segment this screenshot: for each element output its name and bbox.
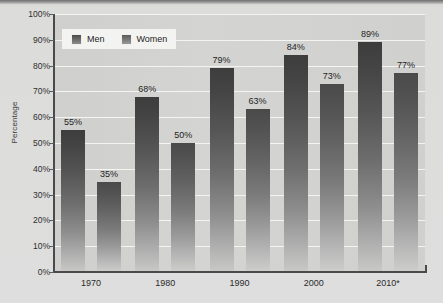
legend-label: Women (137, 34, 168, 44)
bar-value-label: 68% (138, 84, 156, 94)
x-label-1980: 1980 (155, 278, 175, 288)
legend-label: Men (87, 34, 105, 44)
chart-title-cropped (0, 0, 443, 4)
bar-value-label: 89% (361, 29, 379, 39)
bar-men-2000[interactable] (284, 55, 308, 272)
y-tickmark (49, 246, 54, 247)
y-tick-label: 30% (14, 190, 50, 200)
y-tickmark (49, 143, 54, 144)
y-tickmark (49, 40, 54, 41)
bar-value-label: 55% (64, 117, 82, 127)
y-tick-label: 10% (14, 241, 50, 251)
y-tickmark (49, 91, 54, 92)
plot-area: 55%35%68%50%79%63%84%73%89%77% (54, 14, 425, 272)
bar-value-label: 77% (397, 60, 415, 70)
legend-item-men[interactable]: Men (71, 34, 105, 45)
y-tick-label: 0% (14, 267, 50, 277)
women-swatch-icon (121, 34, 132, 45)
bar-men-2010[interactable] (358, 42, 382, 272)
y-tick-label: 50% (14, 138, 50, 148)
chart-legend: MenWomen (62, 29, 176, 49)
bar-women-2010[interactable] (394, 73, 418, 272)
bar-women-1980[interactable] (171, 143, 195, 272)
chart-figure: Percentage 100%90%80%70%60%50%40%30%20%1… (0, 0, 443, 303)
y-tick-label: 80% (14, 61, 50, 71)
y-axis-tick-labels: 100%90%80%70%60%50%40%30%20%10%0% (14, 14, 50, 272)
x-label-2000: 2000 (304, 278, 324, 288)
bar-men-1990[interactable] (210, 68, 234, 272)
bar-value-label: 73% (323, 71, 341, 81)
bar-men-1980[interactable] (135, 97, 159, 272)
bar-men-1970[interactable] (61, 130, 85, 272)
y-tickmark (49, 14, 54, 15)
bar-value-label: 50% (174, 130, 192, 140)
y-tick-label: 20% (14, 215, 50, 225)
x-label-2010: 2010* (376, 278, 400, 288)
y-tick-label: 70% (14, 86, 50, 96)
bar-value-label: 63% (248, 96, 266, 106)
bar-women-1970[interactable] (97, 182, 121, 272)
x-axis-spine (53, 271, 427, 273)
y-tickmark (49, 66, 54, 67)
bar-value-label: 79% (212, 55, 230, 65)
bar-women-1990[interactable] (246, 109, 270, 272)
x-label-1990: 1990 (229, 278, 249, 288)
y-tick-label: 100% (14, 9, 50, 19)
y-tickmark (49, 117, 54, 118)
y-tickmark (49, 220, 54, 221)
y-tick-label: 60% (14, 112, 50, 122)
gridline (54, 14, 425, 15)
men-swatch-icon (71, 34, 82, 45)
bar-women-2000[interactable] (320, 84, 344, 272)
x-label-1970: 1970 (81, 278, 101, 288)
y-tick-label: 40% (14, 164, 50, 174)
x-axis-endcap-tick (425, 265, 427, 273)
x-axis-category-labels: 19701980199020002010* (54, 278, 425, 294)
bar-value-label: 35% (100, 169, 118, 179)
y-tickmark (49, 272, 54, 273)
bar-value-label: 84% (287, 42, 305, 52)
legend-item-women[interactable]: Women (121, 34, 168, 45)
y-tickmark (49, 195, 54, 196)
y-tickmark (49, 169, 54, 170)
y-tick-label: 90% (14, 35, 50, 45)
